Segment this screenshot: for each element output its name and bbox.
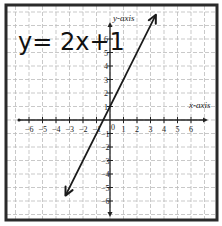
- svg-text:−3: −3: [101, 157, 110, 166]
- svg-text:6: 6: [189, 125, 193, 134]
- svg-text:2: 2: [104, 89, 108, 98]
- x-axis-label: x-axis: [188, 100, 211, 110]
- equation-label: y= 2x+1: [18, 28, 125, 56]
- svg-text:−5: −5: [39, 125, 48, 134]
- svg-text:−1: −1: [101, 130, 110, 139]
- svg-text:−3: −3: [66, 125, 75, 134]
- svg-text:−6: −6: [101, 197, 110, 206]
- svg-text:1: 1: [122, 125, 126, 134]
- coordinate-graph: −6−5−4−3−2−1123456654321−1−2−3−4−5−60 y=…: [0, 0, 222, 226]
- svg-text:2: 2: [135, 125, 139, 134]
- svg-text:−4: −4: [52, 125, 61, 134]
- svg-text:4: 4: [104, 62, 108, 71]
- svg-text:−2: −2: [79, 125, 88, 134]
- svg-text:3: 3: [149, 125, 153, 134]
- y-axis-label: y-axis: [112, 13, 135, 23]
- svg-text:3: 3: [104, 76, 108, 85]
- svg-text:5: 5: [176, 125, 180, 134]
- svg-text:−5: −5: [101, 184, 110, 193]
- svg-text:4: 4: [162, 125, 166, 134]
- svg-text:−4: −4: [101, 170, 110, 179]
- svg-text:−2: −2: [101, 143, 110, 152]
- svg-text:−6: −6: [25, 125, 34, 134]
- svg-text:0: 0: [111, 123, 115, 132]
